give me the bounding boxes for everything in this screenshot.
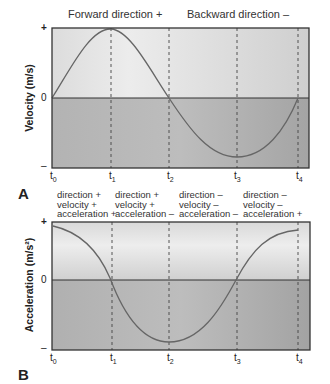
y-axis-label-velocity: Velocity (m/s) — [23, 53, 35, 143]
panel-label-b: B — [18, 366, 29, 383]
xtick-t3: t3 — [234, 170, 241, 183]
xtick-t4: t4 — [296, 170, 303, 183]
xtick-t1: t1 — [109, 170, 116, 183]
acceleration-plot — [52, 222, 310, 350]
xtick-t1: t1 — [110, 352, 117, 365]
xtick-t2: t2 — [167, 170, 174, 183]
xtick-t3: t3 — [234, 352, 241, 365]
header-backward-direction: Backward direction – — [187, 8, 289, 20]
positive-region — [52, 28, 309, 98]
positive-region — [52, 222, 310, 280]
negative-region — [52, 280, 310, 350]
ytick-plus: + — [41, 22, 47, 33]
ytick-minus: – — [41, 160, 47, 171]
xtick-t0: t0 — [50, 352, 57, 365]
velocity-plot — [52, 28, 309, 168]
negative-region — [52, 98, 309, 168]
header-forward-direction: Forward direction + — [68, 8, 162, 20]
xtick-t2: t2 — [167, 352, 174, 365]
ytick-plus: + — [41, 216, 47, 227]
ytick-zero: 0 — [41, 92, 47, 103]
xtick-t0: t0 — [50, 170, 57, 183]
xtick-t4: t4 — [296, 352, 303, 365]
panel-label-a: A — [18, 185, 29, 202]
annotation-t1-t2: direction + velocity + acceleration – — [115, 190, 174, 219]
annotation-t3-t4: direction – velocity – acceleration + — [243, 190, 302, 219]
y-axis-label-acceleration: Acceleration (m/s²) — [23, 230, 35, 340]
annotation-t0-t1: direction + velocity + acceleration + — [57, 190, 116, 219]
ytick-minus: – — [41, 342, 47, 353]
annotation-t2-t3: direction – velocity – acceleration – — [179, 190, 238, 219]
ytick-zero: 0 — [41, 274, 47, 285]
